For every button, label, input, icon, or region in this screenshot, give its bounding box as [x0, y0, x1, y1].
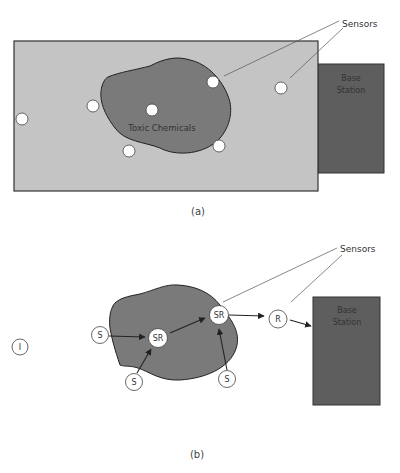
svg-text:S: S: [131, 378, 136, 387]
toxic-chemicals-label: Toxic Chemicals: [127, 123, 196, 133]
sensor-node: [213, 140, 225, 152]
sensors-callout-a: Sensors: [342, 19, 378, 29]
base-station-a-label-1: Base: [341, 74, 361, 83]
svg-text:I: I: [19, 343, 21, 352]
sensor-network-diagram: Base Station Toxic Chemicals Sensors (a)…: [0, 0, 400, 473]
node-s1: S: [92, 327, 109, 344]
sensor-node: [146, 104, 158, 116]
sensor-node: [16, 113, 28, 125]
sensor-node: [207, 76, 219, 88]
sensor-node: [87, 100, 99, 112]
node-s3: S: [219, 371, 236, 388]
svg-text:R: R: [275, 315, 281, 324]
node-r: R: [269, 310, 287, 328]
sensor-node: [123, 145, 135, 157]
svg-text:S: S: [97, 331, 102, 340]
node-sr2: SR: [210, 306, 229, 325]
edge-sr2-r1: [229, 315, 264, 316]
node-i: I: [12, 339, 28, 355]
svg-text:SR: SR: [214, 311, 225, 320]
base-station-a-label-2: Station: [337, 86, 365, 95]
base-station-b-label-1: Base: [337, 306, 357, 315]
toxic-chemical-region-b: [110, 285, 238, 380]
edge-r1-base: [290, 320, 311, 326]
base-station-b-label-2: Station: [333, 318, 361, 327]
caption-b: (b): [190, 449, 204, 460]
callout-line: [291, 255, 342, 302]
svg-text:S: S: [224, 375, 229, 384]
node-sr1: SR: [149, 329, 168, 348]
sensor-node: [275, 82, 287, 94]
svg-text:SR: SR: [153, 334, 164, 343]
figure-b: Base Station I S S: [12, 244, 380, 460]
figure-a: Base Station Toxic Chemicals Sensors (a): [14, 19, 384, 217]
sensors-callout-b: Sensors: [340, 244, 376, 254]
caption-a: (a): [191, 206, 205, 217]
node-s2: S: [126, 374, 143, 391]
